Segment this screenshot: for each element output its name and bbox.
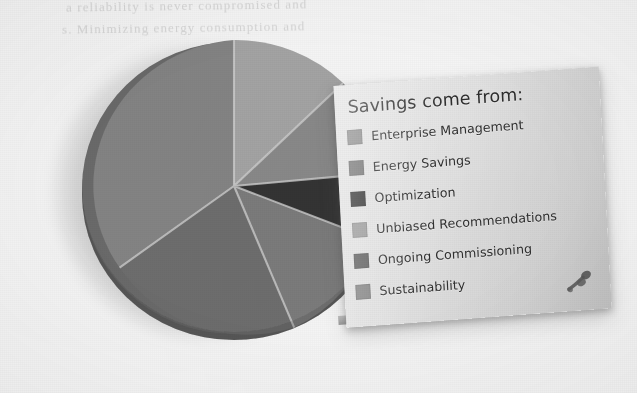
hand-drawn-mark-icon (562, 265, 604, 298)
legend-label-unbiased-recommendations: Unbiased Recommendations (376, 208, 557, 236)
legend-item-unbiased-recommendations[interactable]: Unbiased Recommendations (352, 204, 558, 241)
background-ghost-text-line-1: a reliability is never compromised and (66, 0, 308, 16)
legend-swatch-ongoing-commissioning (354, 252, 370, 268)
legend-item-enterprise-management[interactable]: Enterprise Management (347, 113, 525, 148)
pie-chart (62, 22, 362, 342)
legend-title: Savings come from: (347, 84, 524, 117)
legend-swatch-unbiased-recommendations (352, 221, 368, 237)
legend-card: Savings come from: Enterprise Management… (333, 67, 611, 328)
legend-label-sustainability: Sustainability (379, 276, 466, 297)
legend-label-enterprise-management: Enterprise Management (371, 117, 524, 143)
legend-label-ongoing-commissioning: Ongoing Commissioning (377, 240, 532, 266)
legend-swatch-enterprise-management (347, 129, 363, 145)
legend-label-energy-savings: Energy Savings (372, 152, 471, 174)
legend-item-ongoing-commissioning[interactable]: Ongoing Commissioning (353, 237, 532, 272)
legend-label-optimization: Optimization (374, 184, 456, 205)
legend-swatch-optimization (350, 190, 366, 206)
pie-chart-svg (62, 22, 362, 342)
legend-item-sustainability[interactable]: Sustainability (355, 273, 466, 303)
figure-canvas: a reliability is never compromised and s… (0, 0, 637, 393)
legend-swatch-energy-savings (349, 160, 365, 176)
legend-swatch-sustainability (355, 283, 371, 299)
legend-item-energy-savings[interactable]: Energy Savings (348, 148, 471, 179)
legend-item-optimization[interactable]: Optimization (350, 180, 456, 210)
